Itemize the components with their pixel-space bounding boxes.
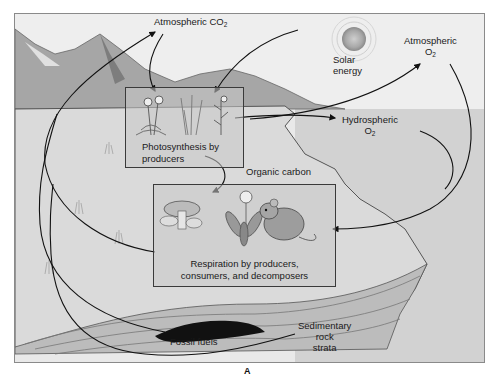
organic-carbon-label: Organic carbon xyxy=(246,166,311,177)
respiration-label-line2: consumers, and decomposers xyxy=(154,270,335,282)
photosynthesis-label-line1: Photosynthesis by xyxy=(142,141,219,153)
respiration-label-line1: Respiration by producers, xyxy=(154,258,335,270)
mushroom-icon xyxy=(160,201,202,229)
respiration-box: Respiration by producers, consumers, and… xyxy=(153,184,336,287)
sedimentary-rock-label: Sedimentary rock strata xyxy=(298,320,351,353)
hydrospheric-o2-label: Hydrospheric O2 xyxy=(342,114,398,139)
carbon-cycle-figure: Photosynthesis by producers xyxy=(14,13,485,363)
solar-energy-label: Solar energy xyxy=(333,54,362,76)
atmospheric-co2-label: Atmospheric CO2 xyxy=(154,16,227,30)
photosynthesis-box: Photosynthesis by producers xyxy=(125,87,244,168)
fossil-fuels-label: Fossil fuels xyxy=(170,336,218,347)
mouse-icon xyxy=(260,199,316,240)
photosynthesis-label-line2: producers xyxy=(142,153,219,165)
atmospheric-o2-label: Atmospheric O2 xyxy=(404,35,457,60)
flower-icon xyxy=(223,191,266,246)
figure-caption: A xyxy=(244,366,251,376)
plants-icon xyxy=(126,90,243,140)
organisms-illustration xyxy=(154,189,335,259)
